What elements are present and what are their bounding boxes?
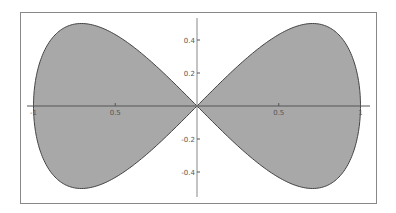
x-tick-label: 1 xyxy=(358,109,362,117)
y-tick-label: 0.4 xyxy=(184,37,196,45)
x-tick-label: 0.5 xyxy=(273,109,284,117)
plot-canvas: -10.50.51 0.40.2-0.2-0.4 xyxy=(0,0,396,213)
y-tick-label: -0.4 xyxy=(181,169,195,177)
y-tick-label: 0.2 xyxy=(184,70,195,78)
y-tick-label: -0.2 xyxy=(181,136,195,144)
x-tick-label: 0.5 xyxy=(110,109,121,117)
x-tick-label: -1 xyxy=(30,109,37,117)
